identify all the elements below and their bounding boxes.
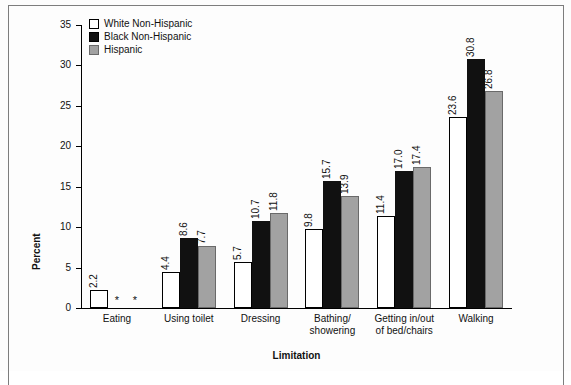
bar-value-label: 4.4 (161, 257, 171, 271)
bar[interactable] (180, 238, 198, 308)
bar-value-label: 30.8 (466, 38, 476, 57)
y-axis-tick-label: 5 (29, 263, 71, 273)
bar-group: 11.417.017.4 (377, 25, 431, 308)
bar[interactable] (305, 229, 323, 308)
bar[interactable] (449, 117, 467, 308)
bar-value-label: 8.6 (179, 223, 189, 237)
y-axis-tick-label: 15 (29, 182, 71, 192)
bar-value-label: 9.8 (304, 213, 314, 227)
suppressed-value-marker: * (108, 296, 126, 304)
bar-value-label: 2.2 (89, 274, 99, 288)
bar[interactable] (485, 91, 503, 308)
bar-value-label: 11.8 (269, 192, 279, 211)
y-axis-title-host: Percent (33, 120, 45, 210)
bar-group: 4.48.67.7 (162, 25, 216, 308)
x-axis-category-label: Walking (421, 313, 531, 325)
bar-value-label: 26.8 (484, 70, 494, 89)
bar[interactable] (377, 216, 395, 308)
x-axis-line (81, 308, 512, 309)
bar-value-label: 10.7 (251, 200, 261, 219)
bar[interactable] (323, 181, 341, 308)
bar[interactable] (341, 196, 359, 308)
y-axis-tick-label: 20 (29, 141, 71, 151)
y-axis-tick-label: 35 (29, 20, 71, 30)
suppressed-value-marker: * (126, 296, 144, 304)
bar-group: 23.630.826.8 (449, 25, 503, 308)
y-axis-tick-label: 30 (29, 60, 71, 70)
bar[interactable] (234, 262, 252, 308)
bar-group: 2.2** (90, 25, 144, 308)
bar-group: 9.815.713.9 (305, 25, 359, 308)
bar-value-label: 17.4 (412, 146, 422, 165)
bar[interactable] (252, 221, 270, 308)
x-axis-title: Limitation (273, 350, 321, 361)
bar[interactable] (162, 272, 180, 308)
bar[interactable] (395, 171, 413, 308)
x-axis-title-host: Limitation (81, 345, 512, 363)
bar[interactable] (198, 246, 216, 308)
bar[interactable] (90, 290, 108, 308)
y-axis-tick-label: 10 (29, 222, 71, 232)
bar-value-label: 23.6 (448, 96, 458, 115)
bar-value-label: 11.4 (376, 195, 386, 214)
bar[interactable] (270, 213, 288, 308)
bar-value-label: 13.9 (340, 174, 350, 193)
plot-area: 2.2**4.48.67.75.710.711.89.815.713.911.4… (81, 25, 512, 308)
y-axis-tick (76, 308, 81, 309)
bar-value-label: 7.7 (197, 230, 207, 244)
bar-value-label: 15.7 (322, 160, 332, 179)
bar-value-label: 17.0 (394, 149, 404, 168)
bar-value-label: 5.7 (233, 246, 243, 260)
bar-group: 5.710.711.8 (234, 25, 288, 308)
bar[interactable] (413, 167, 431, 308)
bar[interactable] (467, 59, 485, 308)
y-axis-tick-label: 25 (29, 101, 71, 111)
y-axis-tick-label: 0 (29, 303, 71, 313)
